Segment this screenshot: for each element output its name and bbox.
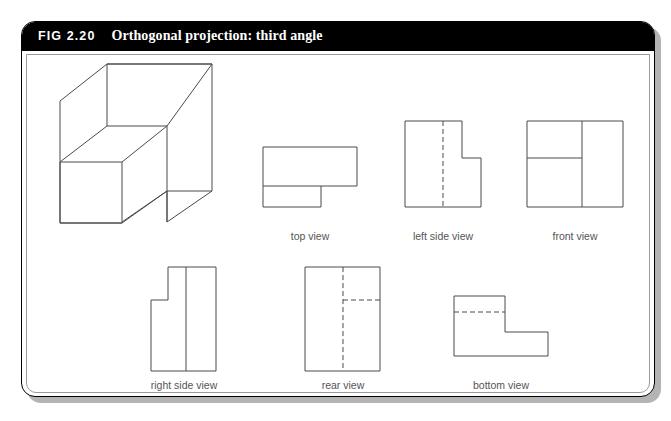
label-left-side-view: left side view (413, 230, 473, 242)
figure-drawing-plate (26, 54, 650, 393)
label-front-view: front view (553, 230, 598, 242)
label-right-side-view: right side view (151, 379, 218, 391)
figure-card: FIG 2.20 Orthogonal projection: third an… (21, 21, 655, 397)
label-bottom-view: bottom view (473, 379, 529, 391)
figure-number: FIG 2.20 (38, 29, 95, 43)
figure-caption: Orthogonal projection: third angle (111, 28, 322, 43)
label-rear-view: rear view (322, 379, 365, 391)
figure-header-bar: FIG 2.20 Orthogonal projection: third an… (22, 22, 655, 51)
figure-page: FIG 2.20 Orthogonal projection: third an… (0, 0, 671, 421)
figure-header-text: FIG 2.20 Orthogonal projection: third an… (38, 28, 323, 44)
label-top-view: top view (291, 230, 330, 242)
